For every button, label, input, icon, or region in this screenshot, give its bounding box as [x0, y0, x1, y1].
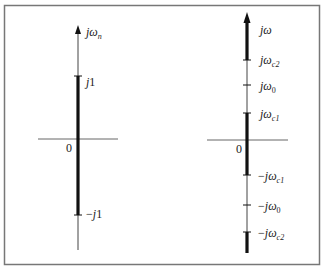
left-origin-label: 0 [66, 141, 72, 155]
label-neg-j1: −j1 [86, 207, 102, 221]
label-jwc2: jωc2 [258, 53, 279, 69]
left-axis-label: jωn [84, 25, 102, 41]
right-axis-label: jω [258, 23, 272, 37]
right-panel: jω jωc2 jω0 jωc1 −jωc1 −jω0 −jωc2 0 [207, 12, 288, 253]
label-jw0: jω0 [258, 79, 276, 95]
label-jwc1: jωc1 [258, 107, 279, 123]
label-neg-jwc1: −jωc1 [258, 169, 284, 185]
label-neg-jw0: −jω0 [258, 199, 281, 215]
pole-zero-diagram: jωn j1 −j1 0 jω jωc2 jω0 jωc1 −jωc1 [0, 0, 325, 270]
right-origin-label: 0 [236, 142, 242, 156]
label-neg-jwc2: −jωc2 [258, 226, 284, 242]
label-j1: j1 [84, 75, 95, 89]
left-axis-arrow-icon [75, 25, 81, 34]
left-panel: jωn j1 −j1 0 [38, 25, 118, 250]
